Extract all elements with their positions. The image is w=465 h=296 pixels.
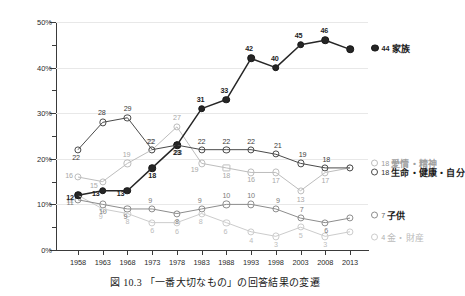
x-tick: [127, 250, 128, 255]
x-tick-label: 1998: [268, 258, 284, 267]
value-label-children-1988: 10: [223, 193, 231, 200]
legend-family-value: 44: [382, 44, 390, 53]
value-label-family-1998: 40: [271, 55, 279, 62]
y-tick-minor: [52, 90, 56, 91]
value-label-affection-1968: 19: [123, 152, 131, 159]
data-point-children-2003: [297, 214, 304, 221]
value-label-family-1973: 18: [148, 172, 156, 179]
legend-life: 18 生命・健康・自分: [371, 166, 465, 179]
x-tick: [276, 250, 277, 255]
x-tick: [152, 250, 153, 255]
data-point-life-1983: [198, 146, 205, 153]
x-tick-label: 2013: [342, 258, 358, 267]
value-label-money-2008: 3: [323, 242, 327, 249]
legend-money-value: 4: [381, 233, 385, 242]
data-point-affection-1983: [198, 160, 205, 167]
data-point-family-1968: [124, 187, 132, 195]
y-tick-label: 30%: [12, 109, 52, 118]
data-point-affection-2003: [297, 187, 304, 194]
figure-caption: 図 10.3 「一番大切なもの」の回答結果の変遷: [0, 274, 430, 289]
x-tick: [226, 250, 227, 255]
data-point-family-1958: [74, 191, 82, 199]
x-tick-label: 1978: [169, 258, 185, 267]
data-point-children-2013: [346, 214, 353, 221]
value-label-life-2003: 19: [299, 152, 307, 159]
value-label-money-2003: 5: [299, 233, 303, 240]
data-point-children-1973: [149, 205, 156, 212]
value-label-children-1993: 10: [247, 193, 255, 200]
value-label-life-1968: 29: [124, 105, 132, 112]
value-label-life-1988: 22: [223, 138, 231, 145]
data-point-money-1988: [223, 219, 230, 226]
value-label-family-1988: 33: [221, 87, 229, 94]
data-point-children-1988: [223, 201, 230, 208]
legend-family-label: 家族: [392, 42, 410, 55]
x-tick-label: 2008: [317, 258, 333, 267]
value-label-life-1998: 21: [274, 143, 282, 150]
value-label-children-1968: 9: [124, 213, 128, 220]
gridline: [56, 22, 368, 23]
value-label-money-1983: 8: [199, 218, 203, 225]
data-point-life-2003: [297, 160, 304, 167]
value-label-money-1978: 6: [175, 228, 179, 235]
x-tick-label: 1958: [70, 258, 86, 267]
x-tick-label: 1963: [95, 258, 111, 267]
legend-children-label: 子供: [387, 209, 405, 222]
data-point-family-1993: [247, 55, 255, 63]
data-point-family-2008: [321, 36, 329, 44]
value-label-family-1983: 31: [197, 96, 205, 103]
x-tick: [177, 250, 178, 255]
value-label-affection-1998: 17: [272, 178, 280, 185]
data-point-life-1988: [223, 146, 230, 153]
data-point-life-2013: [346, 164, 353, 171]
x-tick: [350, 250, 351, 255]
x-tick: [251, 250, 252, 255]
value-label-life-2008: 18: [322, 156, 330, 163]
legend-marker: [371, 211, 378, 218]
value-label-affection-1958: 16: [65, 172, 73, 179]
data-point-children-1998: [272, 205, 279, 212]
y-tick-minor: [52, 45, 56, 46]
value-label-family-1993: 42: [245, 46, 253, 53]
value-label-family-2003: 45: [295, 32, 303, 39]
x-tick-label: 1968: [119, 258, 135, 267]
data-point-money-2003: [297, 224, 304, 231]
value-label-family-1958: 12: [66, 195, 74, 202]
value-label-family-1968: 13: [117, 190, 125, 197]
value-label-life-1993: 22: [247, 138, 255, 145]
data-point-life-1968: [124, 114, 131, 121]
plot-area: 1298668643531110998910109761615192227191…: [56, 22, 368, 250]
data-point-life-1973: [149, 146, 156, 153]
y-tick-label: 0%: [12, 246, 52, 255]
y-tick-label: 50%: [12, 18, 52, 27]
value-label-children-1998: 9: [276, 197, 280, 204]
data-point-family-1998: [272, 64, 280, 72]
x-tick-label: 1973: [144, 258, 160, 267]
value-label-affection-1983: 19: [191, 167, 199, 174]
data-point-affection-1978: [173, 123, 180, 130]
legend-marker: [371, 168, 378, 175]
x-tick: [301, 250, 302, 255]
x-tick-label: 2003: [293, 258, 309, 267]
legend-marker: [371, 233, 378, 240]
x-tick: [103, 250, 104, 255]
data-point-life-1963: [99, 119, 106, 126]
value-label-children-1978: 8: [175, 218, 179, 225]
legend-money: 4 金・財産: [371, 231, 424, 244]
value-label-children-2003: 7: [300, 206, 304, 213]
data-point-life-1993: [247, 146, 254, 153]
x-tick-label: 1983: [194, 258, 210, 267]
gridline: [56, 159, 368, 160]
value-label-life-1983: 22: [198, 138, 206, 145]
legend-money-label: 金・財産: [387, 231, 424, 244]
value-label-life-1963: 28: [98, 110, 106, 117]
value-label-affection-1963: 15: [90, 182, 98, 189]
data-point-affection-1998: [272, 169, 279, 176]
legend-marker: [371, 44, 379, 52]
value-label-life-1973: 22: [147, 138, 155, 145]
data-point-children-1993: [247, 201, 254, 208]
y-tick-minor: [52, 227, 56, 228]
data-point-life-1998: [272, 151, 279, 158]
data-point-affection-1958: [74, 173, 81, 180]
